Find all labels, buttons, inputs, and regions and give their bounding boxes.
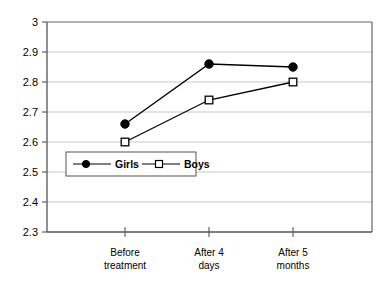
legend-label-girls: Girls [115, 158, 139, 170]
y-axis-label-2-9: 2.9 [23, 46, 38, 58]
marker-open-square-boys-1 [205, 96, 213, 104]
x-label-before-treatment-line1: Before [110, 247, 140, 258]
marker-open-square-boys-0 [121, 138, 129, 146]
x-label-after-4-days-line2: days [198, 260, 219, 271]
x-label-after-5-months-line2: months [277, 260, 310, 271]
x-label-after-5-months-line1: After 5 [278, 247, 308, 258]
y-axis-label-2-6: 2.6 [23, 136, 38, 148]
plot-area-background [47, 22, 372, 232]
x-axis-labels: Before treatment After 4 days After 5 mo… [104, 247, 310, 271]
marker-filled-circle-girls-0 [121, 120, 129, 128]
y-axis-label-2-8: 2.8 [23, 76, 38, 88]
chart-legend: Girls Boys [66, 152, 210, 176]
y-axis-label-2-3: 2.3 [23, 226, 38, 238]
marker-filled-circle-girls-2 [289, 63, 297, 71]
marker-open-square-boys-2 [289, 78, 297, 86]
x-label-before-treatment-line2: treatment [104, 260, 146, 271]
y-axis-label-2-4: 2.4 [23, 196, 38, 208]
y-axis-label-2-7: 2.7 [23, 106, 38, 118]
y-axis-label-3-0: 3 [32, 16, 38, 28]
legend-girls-filled-circle-icon [82, 160, 89, 167]
legend-label-boys: Boys [184, 158, 210, 170]
y-axis-labels: 3 2.9 2.8 2.7 2.6 2.5 2.4 2.3 [23, 16, 38, 238]
x-label-after-4-days-line1: After 4 [194, 247, 224, 258]
line-chart: 3 2.9 2.8 2.7 2.6 2.5 2.4 2.3 Before tre… [0, 0, 387, 284]
y-axis-label-2-5: 2.5 [23, 166, 38, 178]
chart-canvas: 3 2.9 2.8 2.7 2.6 2.5 2.4 2.3 Before tre… [0, 0, 387, 284]
marker-filled-circle-girls-1 [205, 60, 213, 68]
legend-boys-open-square-icon [156, 161, 163, 168]
y-axis-ticks [42, 22, 47, 232]
